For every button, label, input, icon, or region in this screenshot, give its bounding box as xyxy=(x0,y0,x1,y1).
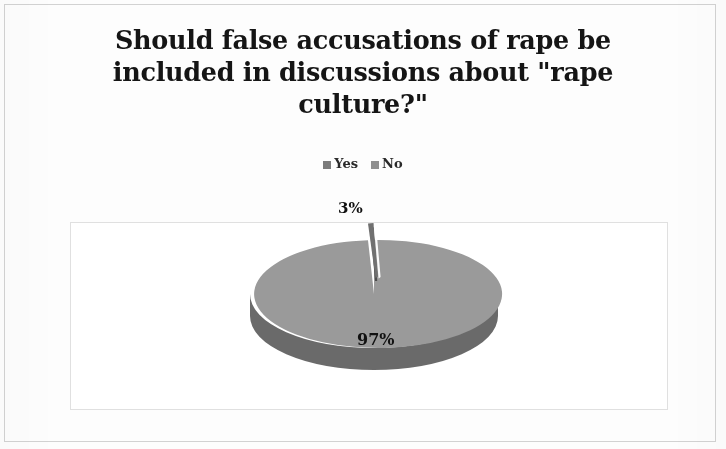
legend-item-yes[interactable]: Yes xyxy=(323,157,358,171)
legend-item-no[interactable]: No xyxy=(371,157,403,171)
legend-swatch-yes-icon xyxy=(323,161,331,169)
legend-label-yes: Yes xyxy=(334,157,358,171)
chart-title: Should false accusations of rape be incl… xyxy=(60,24,666,120)
chart-title-line-3: culture?" xyxy=(60,88,666,120)
legend-label-no: No xyxy=(382,157,403,171)
chart-legend: Yes No xyxy=(0,157,726,171)
pie-chart xyxy=(244,196,504,402)
pie-label-yes: 3% xyxy=(338,199,363,217)
legend-swatch-no-icon xyxy=(371,161,379,169)
pie-chart-svg xyxy=(244,196,504,402)
pie-label-no: 97% xyxy=(357,330,394,349)
chart-screenshot: Should false accusations of rape be incl… xyxy=(0,0,726,449)
chart-title-line-1: Should false accusations of rape be xyxy=(60,24,666,56)
chart-title-line-2: included in discussions about "rape xyxy=(60,56,666,88)
